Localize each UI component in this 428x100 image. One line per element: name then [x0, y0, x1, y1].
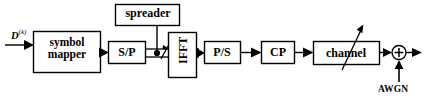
arrow-input [24, 40, 34, 50]
arrow-cp-to-channel [303, 48, 314, 58]
arrow-mapper-to-sp [99, 48, 109, 58]
block-ifft [169, 33, 197, 78]
arrow-channel-to-adder [383, 48, 392, 57]
diagram-canvas [0, 0, 428, 100]
block-spreader [116, 5, 180, 26]
arrow-ps-to-cp [251, 48, 262, 58]
block-symbol-mapper [34, 32, 101, 73]
arrow-awgn-to-adder [395, 60, 404, 69]
junction-dot [154, 50, 160, 56]
block-sp [109, 42, 146, 64]
block-diagram: D(k) symbol mapper S/P spreader IFFT P/S… [0, 0, 428, 100]
arrow-ifft-to-ps [196, 48, 205, 58]
block-ps [205, 42, 241, 64]
block-cp [262, 42, 295, 64]
arrow-output [412, 48, 422, 57]
